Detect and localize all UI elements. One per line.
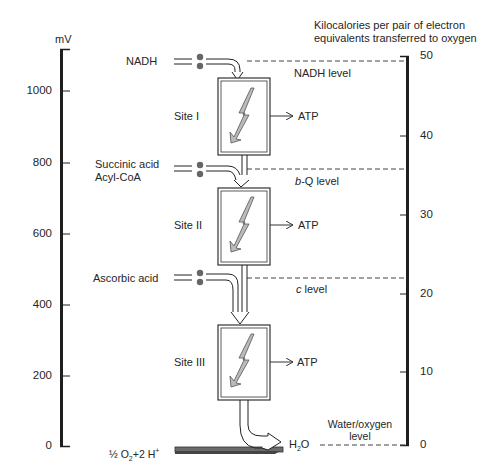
site-1-box (218, 78, 293, 155)
left-tick-1000: 1000 (12, 84, 52, 96)
bq-level-label: b-Q level (295, 175, 339, 188)
right-tick-0: 0 (420, 438, 426, 450)
site-1-label: Site I (174, 110, 199, 123)
right-axis-title-line2: equivalents transferred to oxygen (314, 32, 477, 45)
site-2-atp-label: ATP (298, 219, 319, 232)
left-axis-unit: mV (55, 33, 72, 46)
right-tick-30: 30 (420, 208, 433, 220)
diagram-graphics (0, 0, 483, 471)
c-rest: level (302, 283, 328, 295)
h2o-suffix: O (301, 438, 310, 450)
site-3-atp-label: ATP (297, 356, 318, 369)
succinic-entry-pipe (174, 166, 249, 187)
right-tick-50: 50 (420, 49, 433, 61)
left-tick-600: 600 (12, 227, 52, 239)
water-level-line2: level (325, 430, 395, 442)
h2o-output-arrow (240, 400, 281, 450)
ascorbic-entry-pipe (174, 265, 249, 324)
water-oxygen-level-label: Water/oxygen level (325, 418, 395, 442)
site-1-atp-label: ATP (298, 110, 319, 123)
oxygen-prefix: ½ O (109, 448, 129, 460)
nadh-entry-pipe (174, 59, 243, 80)
nadh-level-label: NADH level (294, 67, 351, 80)
oxygen-suffix: +2 H (133, 448, 155, 460)
h2o-label: H2O (289, 438, 309, 455)
site-2-box (218, 188, 293, 265)
ascorbic-acid-label: Ascorbic acid (93, 272, 158, 285)
proton-superscript: + (155, 447, 159, 454)
connector-1-2 (242, 155, 247, 175)
c-level-label: c level (296, 283, 327, 296)
nadh-label: NADH (126, 55, 157, 68)
right-tick-10: 10 (420, 365, 433, 377)
left-tick-800: 800 (12, 156, 52, 168)
site-3-label: Site III (174, 356, 205, 369)
site-2-label: Site II (174, 219, 202, 232)
left-axis (60, 49, 70, 447)
left-tick-400: 400 (12, 298, 52, 310)
bq-rest: -Q level (301, 175, 339, 187)
h2o-prefix: H (289, 438, 297, 450)
left-tick-0: 0 (12, 439, 52, 451)
right-axis (400, 56, 409, 446)
acyl-coa-label: Acyl-CoA (95, 171, 141, 184)
left-tick-200: 200 (12, 369, 52, 381)
right-tick-20: 20 (420, 287, 433, 299)
right-axis-title-line1: Kilocalories per pair of electron (314, 19, 465, 32)
succinic-acid-label: Succinic acid (95, 158, 159, 171)
level-lines (247, 61, 405, 445)
oxygen-protons-label: ½ O2+2 H+ (109, 444, 159, 465)
site-3-box (218, 325, 293, 400)
right-tick-40: 40 (420, 129, 433, 141)
water-level-line1: Water/oxygen (325, 418, 395, 430)
